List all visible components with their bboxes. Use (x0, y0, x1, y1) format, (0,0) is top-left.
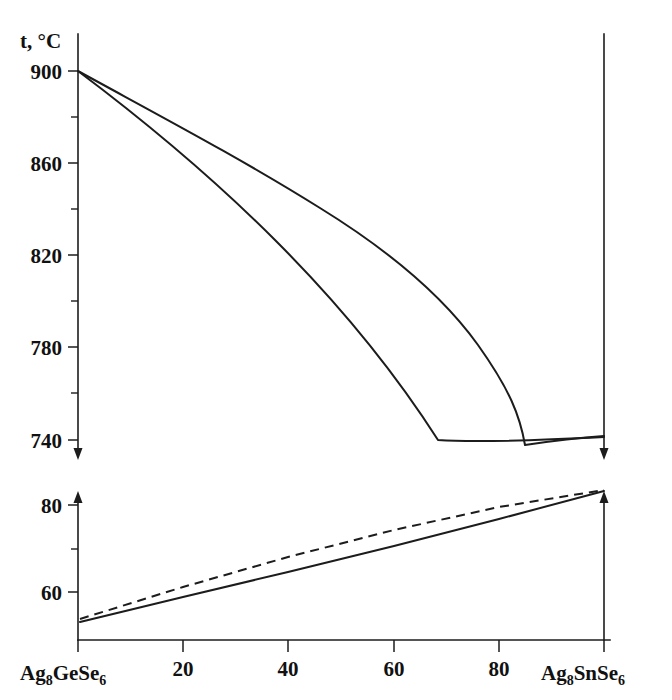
left-endmember-label: Ag8GeSe6 (20, 661, 106, 688)
y-axis-caption: t, °C (20, 29, 61, 53)
lower-tick-label-60: 60 (41, 581, 62, 605)
x-tick-label-60: 60 (384, 657, 405, 681)
upper-tick-label-860: 860 (31, 152, 63, 176)
curve-solidus (78, 71, 604, 441)
x-tick-label-80: 80 (489, 657, 510, 681)
curve-liquidus (78, 71, 604, 445)
right-endmember-label: Ag8SnSe6 (541, 661, 625, 688)
upper-tick-label-900: 900 (31, 60, 63, 84)
phase-diagram-figure: t, °C 900 860 820 780 740 (0, 0, 672, 700)
right-endmember-part1: Ag (541, 661, 567, 685)
upper-panel-left-axis-arrow-icon (74, 448, 83, 460)
phase-diagram-canvas: t, °C 900 860 820 780 740 (0, 0, 672, 700)
lower-panel: 80 60 20 40 60 80 (41, 490, 610, 681)
upper-tick-label-820: 820 (31, 244, 63, 268)
right-endmember-sub1: 8 (567, 673, 574, 688)
upper-panel: t, °C 900 860 820 780 740 (20, 29, 609, 460)
upper-tick-label-740: 740 (31, 429, 63, 453)
lower-panel-left-axis-arrow-icon (74, 491, 83, 503)
lower-curve-solid (80, 491, 604, 622)
x-tick-label-20: 20 (173, 657, 194, 681)
left-endmember-sub2: 6 (99, 673, 106, 688)
upper-panel-right-axis-arrow-icon (600, 448, 609, 460)
lower-tick-label-80: 80 (41, 494, 62, 518)
lower-curve-dashed (80, 490, 604, 619)
left-endmember-part2: GeSe (53, 661, 100, 685)
right-endmember-part2: SnSe (574, 661, 618, 685)
right-endmember-sub2: 6 (618, 673, 625, 688)
x-tick-label-40: 40 (278, 657, 299, 681)
left-endmember-sub1: 8 (46, 673, 53, 688)
left-endmember-part1: Ag (20, 661, 46, 685)
upper-tick-label-780: 780 (31, 336, 63, 360)
